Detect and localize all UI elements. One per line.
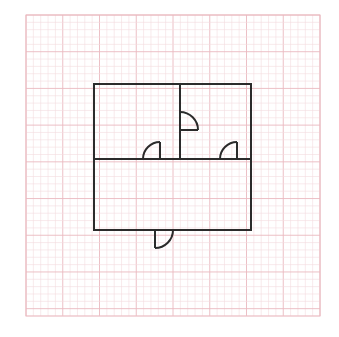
door-top-right-room-icon: [220, 142, 237, 159]
door-top-left-room-icon: [143, 142, 160, 159]
floor-plan-canvas: [0, 0, 339, 337]
door-entrance-icon: [155, 230, 173, 248]
walls: [94, 84, 251, 230]
graph-paper-grid: [26, 15, 320, 316]
